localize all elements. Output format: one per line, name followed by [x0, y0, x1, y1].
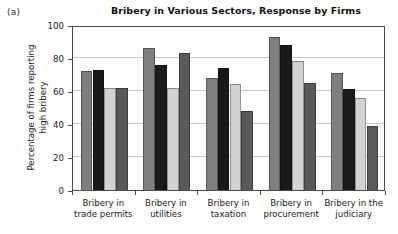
bar-5-series-1: [331, 73, 343, 190]
y-tick-label-20: 20: [34, 154, 64, 163]
bar-2-series-1: [143, 48, 155, 190]
x-tick-mark-3: [260, 191, 261, 195]
x-tick-mark-4: [322, 191, 323, 195]
gridline-80: [73, 57, 384, 58]
bar-3-series-3: [230, 84, 242, 190]
figure-panel: (a) Bribery in Various Sectors, Response…: [0, 0, 398, 234]
panel-label: (a): [7, 7, 20, 18]
bar-2-series-3: [167, 88, 179, 190]
x-tick-mark-5: [385, 191, 386, 195]
y-tick-label-40: 40: [34, 121, 64, 130]
bar-2-series-4: [179, 53, 191, 190]
x-tick-mark-2: [197, 191, 198, 195]
plot-area: [72, 26, 385, 191]
bar-5-series-4: [367, 126, 379, 190]
y-axis-label-line2: high bribery: [37, 23, 49, 193]
bar-1-series-3: [104, 88, 116, 190]
x-category-label-5-line2: judiciary: [316, 209, 391, 220]
x-category-label-5: Bribery in thejudiciary: [316, 198, 391, 220]
x-tick-mark-0: [72, 191, 73, 195]
x-tick-mark-1: [135, 191, 136, 195]
x-category-label-5-line1: Bribery in the: [316, 198, 391, 209]
bar-3-series-2: [218, 68, 230, 190]
y-tick-label-60: 60: [34, 88, 64, 97]
y-axis-label: Percentage of firms reporting high bribe…: [26, 23, 49, 193]
bar-4-series-1: [269, 37, 281, 190]
bar-3-series-1: [206, 78, 218, 190]
chart-title: Bribery in Various Sectors, Response by …: [86, 5, 386, 17]
y-tick-label-0: 0: [34, 187, 64, 196]
bar-2-series-2: [155, 65, 167, 190]
bar-5-series-2: [343, 89, 355, 190]
y-tick-label-100: 100: [34, 22, 64, 31]
bar-4-series-3: [292, 61, 304, 190]
bar-3-series-4: [241, 111, 253, 190]
bar-1-series-4: [116, 88, 128, 190]
bar-5-series-3: [355, 98, 367, 190]
bar-1-series-1: [81, 71, 93, 190]
y-axis-label-line1: Percentage of firms reporting: [26, 23, 38, 193]
bar-1-series-2: [93, 70, 105, 190]
bar-4-series-2: [280, 45, 292, 190]
y-tick-label-80: 80: [34, 55, 64, 64]
bar-4-series-4: [304, 83, 316, 190]
